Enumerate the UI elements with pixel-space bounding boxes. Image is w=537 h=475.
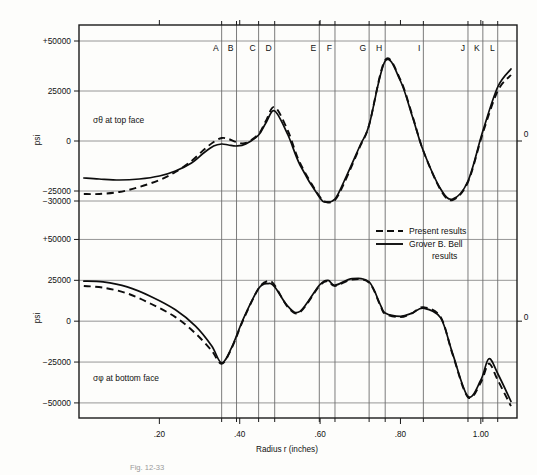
bottom-panel-ytick-label: 25000 — [48, 275, 72, 285]
y-axis-label-bottom: psi — [33, 313, 42, 324]
top-panel-ytick-label: 25000 — [48, 86, 72, 96]
x-tick-label: .80 — [395, 430, 407, 439]
top-panel-ytick-label: −30000 — [43, 196, 72, 206]
bottom-panel-ytick-label: 0 — [66, 316, 71, 326]
x-tick-label: .40 — [234, 430, 246, 439]
x-tick-label: .20 — [154, 430, 166, 439]
annotation-bottom-face: σφ at bottom face — [93, 373, 159, 383]
x-tick-label: .60 — [314, 430, 326, 439]
vertical-marker-label-a: A — [213, 43, 219, 53]
stress-vs-radius-chart: +50000250000−25000−30000+50000250000−250… — [0, 0, 537, 475]
top-panel-ytick-label: 0 — [66, 136, 71, 146]
y-axis-label-top: psi — [33, 135, 42, 146]
x-tick-label: 1.00 — [473, 430, 489, 439]
vertical-marker-label-d: D — [265, 43, 271, 53]
vertical-marker-label-h: H — [376, 43, 382, 53]
vertical-marker-label-b: B — [228, 43, 234, 53]
vertical-marker-label-j: J — [461, 43, 465, 53]
vertical-marker-label-k: K — [474, 43, 480, 53]
figure-container: +50000250000−25000−30000+50000250000−250… — [0, 0, 537, 475]
legend-label-grover-bell-results-cont: results — [432, 251, 457, 261]
figure-caption: Fig. 12-33 — [130, 463, 164, 472]
bottom-panel-ytick-label: +50000 — [43, 234, 72, 244]
legend-label-present-results: Present results — [409, 226, 466, 236]
bottom-panel-ytick-label: −25000 — [43, 357, 72, 367]
bottom-panel-ytick-label: −50000 — [43, 398, 72, 408]
right-zero-label-bottom: 0 — [524, 312, 529, 322]
vertical-marker-label-i: I — [418, 43, 420, 53]
legend-label-grover-bell-results: Grover B. Bell — [409, 239, 463, 249]
vertical-marker-label-g: G — [359, 43, 366, 53]
vertical-marker-label-f: F — [327, 43, 332, 53]
top-panel-ytick-label: +50000 — [43, 36, 72, 46]
vertical-marker-label-l: L — [490, 43, 495, 53]
figure-background — [0, 0, 537, 475]
top-panel-ytick-label: −25000 — [43, 186, 72, 196]
x-axis-label: Radius r (inches) — [256, 445, 318, 454]
right-zero-label-top: 0 — [524, 129, 529, 139]
vertical-marker-label-c: C — [249, 43, 255, 53]
annotation-top-face: σθ at top face — [93, 115, 145, 125]
vertical-marker-label-e: E — [311, 43, 317, 53]
